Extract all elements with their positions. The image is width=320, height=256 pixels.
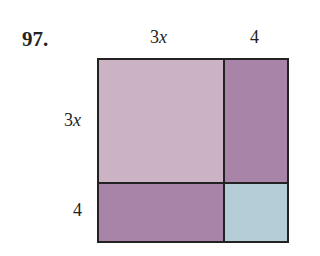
problem-number: 97.: [22, 27, 48, 52]
big-square-region: [99, 60, 225, 184]
right-rectangle-region: [225, 60, 287, 184]
side-label-4: 4: [73, 200, 82, 221]
top-label-3x: 3x: [150, 27, 167, 48]
coef: 3: [64, 110, 73, 130]
side-label-3x: 3x: [64, 110, 81, 131]
small-square-region: [225, 184, 287, 241]
top-label-4: 4: [250, 27, 259, 48]
area-square: [97, 58, 289, 243]
variable: x: [73, 110, 81, 130]
bottom-rectangle-region: [99, 184, 225, 241]
variable: x: [159, 27, 167, 47]
coef: 3: [150, 27, 159, 47]
